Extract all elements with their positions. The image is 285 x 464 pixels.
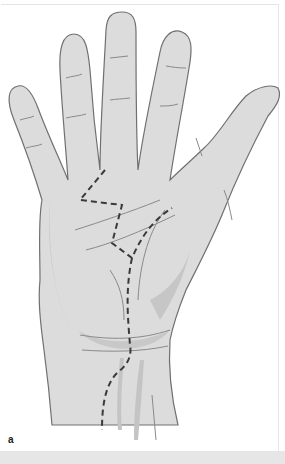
panel-label: a bbox=[8, 434, 14, 445]
hand-illustration bbox=[0, 0, 285, 464]
hand-outline bbox=[9, 12, 279, 425]
hand bbox=[9, 12, 279, 440]
bottom-bar bbox=[0, 451, 285, 464]
